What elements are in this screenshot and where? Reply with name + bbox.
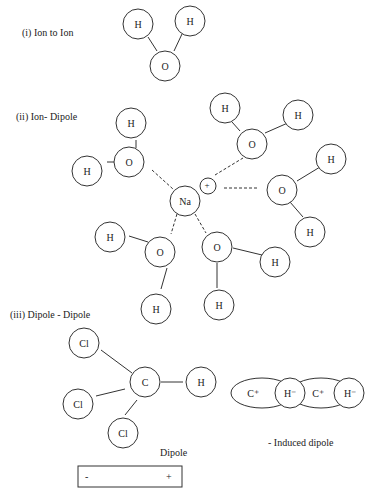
svg-text:H: H (215, 300, 222, 311)
svg-text:Cl: Cl (79, 338, 89, 349)
water-upper-right: H O H (210, 93, 313, 159)
section-ion-dipole-title: (ii) Ion- Dipole (16, 111, 78, 123)
water-lower-right: O H H (202, 232, 290, 320)
induced-dipole-label: - Induced dipole (268, 437, 334, 448)
svg-text:H: H (221, 103, 228, 114)
svg-text:H: H (186, 16, 193, 27)
svg-text:C: C (142, 377, 149, 388)
svg-text:H: H (306, 227, 313, 238)
svg-text:H: H (127, 118, 134, 129)
svg-text:O: O (278, 185, 285, 196)
svg-text:C⁺: C⁺ (312, 388, 324, 399)
svg-text:Na: Na (179, 196, 191, 207)
svg-text:-: - (85, 471, 88, 482)
chloroform-molecule: Cl C H Cl Cl (63, 328, 216, 448)
svg-text:H⁻: H⁻ (344, 388, 356, 399)
svg-text:O: O (248, 139, 255, 150)
svg-text:+: + (204, 180, 209, 190)
svg-text:H: H (294, 110, 301, 121)
water-lower-left: H O H (95, 222, 175, 324)
svg-text:H: H (134, 19, 141, 30)
water-upper-left: H O H (72, 108, 146, 186)
svg-text:Cl: Cl (118, 428, 128, 439)
water-right: H O H (267, 144, 346, 247)
svg-text:+: + (166, 471, 172, 482)
svg-text:Cl: Cl (73, 399, 83, 410)
section-ion-ion-title: (i) Ion to Ion (22, 27, 73, 39)
dipole-box: - + (78, 466, 182, 487)
induced-dipole-chain: C⁺ H⁻ C⁺ H⁻ (231, 378, 364, 408)
section-dipole-dipole-title: (iii) Dipole - Dipole (10, 309, 91, 321)
water-molecule-ion-ion: H H O (123, 6, 205, 81)
svg-text:H: H (83, 166, 90, 177)
svg-text:O: O (161, 61, 168, 72)
svg-text:O: O (213, 242, 220, 253)
svg-text:H: H (327, 154, 334, 165)
dipole-label: Dipole (160, 447, 188, 458)
svg-text:H: H (152, 304, 159, 315)
svg-text:H⁻: H⁻ (284, 388, 296, 399)
svg-text:C⁺: C⁺ (247, 388, 259, 399)
svg-text:H: H (271, 257, 278, 268)
sodium-ion: Na + (170, 178, 216, 216)
intermolecular-forces-diagram: (i) Ion to Ion H H O (ii) Ion- Dipole H … (0, 0, 381, 498)
svg-text:O: O (156, 247, 163, 258)
svg-text:H: H (106, 232, 113, 243)
svg-text:O: O (125, 157, 132, 168)
svg-text:H: H (197, 377, 204, 388)
